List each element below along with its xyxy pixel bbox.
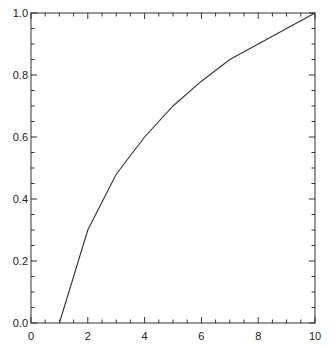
x-tick-label: 0	[28, 330, 34, 342]
y-tick-label: 0.4	[13, 193, 28, 205]
y-axis-tick-labels: 0.00.20.40.60.81.0	[13, 7, 28, 329]
line-chart-svg: 0246810 0.00.20.40.60.81.0	[0, 0, 330, 348]
y-tick-label: 0.8	[13, 69, 28, 81]
y-tick-label: 1.0	[13, 7, 28, 19]
chart: 0246810 0.00.20.40.60.81.0	[0, 0, 330, 348]
x-tick-label: 8	[255, 330, 261, 342]
x-tick-label: 6	[198, 330, 204, 342]
y-tick-label: 0.0	[13, 317, 28, 329]
x-tick-label: 10	[309, 330, 321, 342]
x-axis-tick-labels: 0246810	[28, 330, 321, 342]
x-tick-label: 4	[142, 330, 148, 342]
data-line-curve	[59, 13, 315, 323]
y-tick-label: 0.2	[13, 255, 28, 267]
series-layer	[59, 13, 315, 323]
x-tick-label: 2	[85, 330, 91, 342]
y-tick-label: 0.6	[13, 131, 28, 143]
